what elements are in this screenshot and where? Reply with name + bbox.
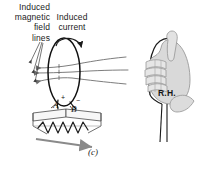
figure-caption: (c) bbox=[88, 147, 98, 157]
label-sign-negative: − bbox=[76, 97, 80, 104]
left-diagram-group bbox=[30, 38, 128, 147]
lead-wire-left bbox=[160, 104, 162, 142]
motion-arrow bbox=[36, 139, 92, 147]
field-label-leader-lines bbox=[30, 42, 43, 82]
label-terminal-a: A bbox=[53, 100, 59, 110]
resistor-zigzag-symbol bbox=[38, 122, 88, 133]
label-line-2: current bbox=[50, 22, 94, 32]
right-hand-diagram-group bbox=[145, 31, 194, 142]
label-induced-magnetic-field-lines: Induced magnetic field lines bbox=[2, 2, 50, 43]
motion-arrow-shaft bbox=[36, 139, 92, 147]
label-sign-positive: + bbox=[61, 94, 65, 101]
label-right-hand: R.H. bbox=[158, 88, 176, 98]
physics-figure-induced-current: Induced magnetic field lines Induced cur… bbox=[0, 0, 201, 169]
label-line-1: Induced bbox=[2, 2, 50, 12]
label-line-2: magnetic bbox=[2, 12, 50, 22]
right-hand-grip bbox=[145, 31, 194, 112]
leader-line-1 bbox=[30, 42, 40, 63]
resistor-face-left bbox=[33, 109, 66, 121]
label-terminal-b: B bbox=[71, 104, 77, 114]
label-line-1: Induced bbox=[50, 12, 94, 22]
label-line-3: field bbox=[2, 22, 50, 32]
resistor-block bbox=[33, 109, 101, 134]
label-induced-current: Induced current bbox=[50, 12, 94, 32]
label-line-4: lines bbox=[2, 33, 50, 43]
